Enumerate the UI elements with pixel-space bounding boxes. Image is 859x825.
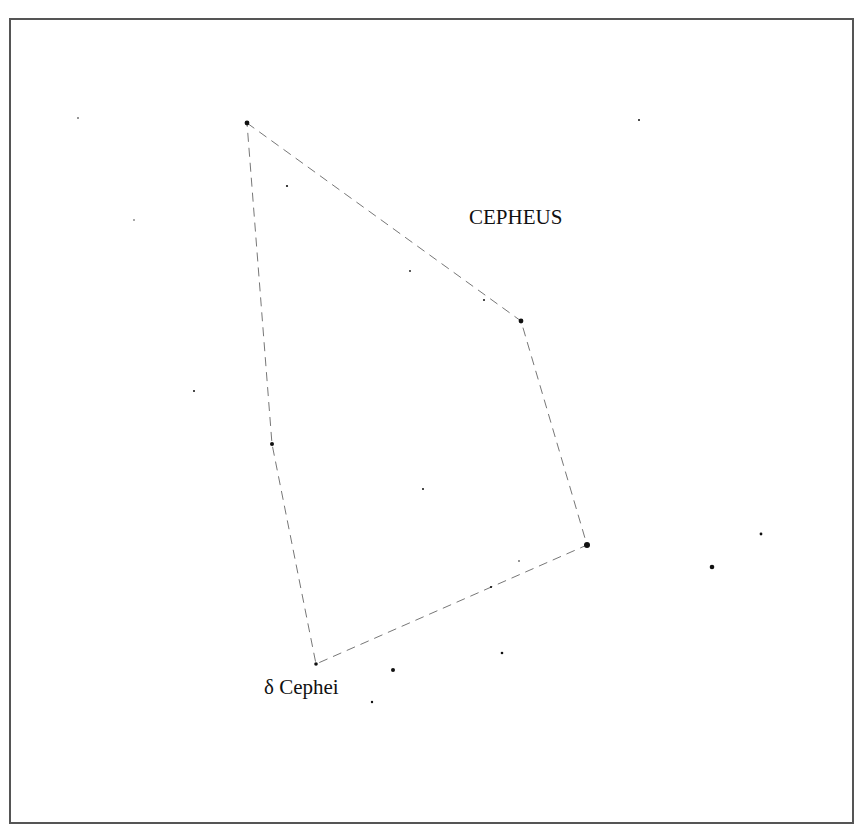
- chart-frame: [10, 19, 853, 823]
- background-star: [371, 701, 373, 703]
- delta-cephei-label: δ Cephei: [264, 675, 339, 699]
- background-star: [391, 668, 395, 672]
- constellation-star: [245, 121, 250, 126]
- background-star: [760, 533, 763, 536]
- background-star: [193, 390, 195, 392]
- background-star: [638, 119, 640, 121]
- background-star: [422, 488, 424, 490]
- background-star: [77, 117, 79, 119]
- constellation-star: [519, 319, 524, 324]
- star-delta-cephei: [314, 662, 318, 666]
- background-star: [518, 560, 520, 562]
- background-stars: [77, 117, 762, 703]
- background-star: [490, 586, 492, 588]
- star-chart: CEPHEUS δ Cephei: [0, 0, 859, 825]
- constellation-stars: [245, 121, 590, 666]
- background-star: [133, 219, 134, 220]
- background-star: [710, 565, 715, 570]
- background-star: [483, 299, 485, 301]
- background-star: [501, 652, 504, 655]
- background-star: [409, 270, 411, 272]
- constellation-title: CEPHEUS: [469, 205, 562, 229]
- background-star: [286, 185, 288, 187]
- constellation-star: [584, 542, 590, 548]
- constellation-star: [270, 442, 274, 446]
